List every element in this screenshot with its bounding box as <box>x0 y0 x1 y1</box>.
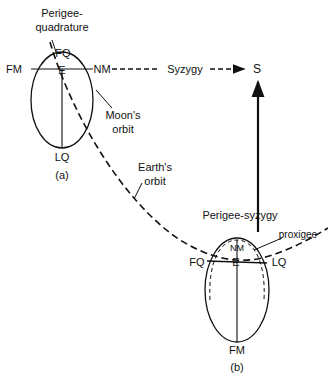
earth-orbit-line2: orbit <box>144 175 165 187</box>
label-e-a: E <box>58 64 65 76</box>
label-fm-a: FM <box>6 63 22 75</box>
moon-orbit-leader <box>96 90 112 108</box>
moon-orbit-line1: Moon's <box>105 109 141 121</box>
lunar-orbit-diagram: Perigee- quadrature FQ FM E NM LQ (a) Mo… <box>0 0 328 387</box>
label-fm-b: FM <box>229 344 245 356</box>
earth-orbit-leader <box>134 183 142 199</box>
earth-orbit-line1: Earth's <box>138 161 172 173</box>
label-nm-b: NM <box>230 243 244 253</box>
perigee-quadrature-line2: quadrature <box>35 21 88 33</box>
label-lq-a: LQ <box>55 151 70 163</box>
perigee-quadrature-line1: Perigee- <box>41 7 83 19</box>
proxigee-label: proxigee <box>279 229 318 240</box>
moon-orbit-line2: orbit <box>112 123 133 135</box>
label-fq-a: FQ <box>55 47 71 59</box>
label-e-b: E <box>232 256 239 268</box>
label-lq-b: LQ <box>272 256 287 268</box>
label-fq-b: FQ <box>189 256 205 268</box>
perigee-syzygy-title: Perigee-syzygy <box>202 209 278 221</box>
panel-a-label: (a) <box>55 169 68 181</box>
label-s: S <box>253 62 261 76</box>
syzygy-label: Syzygy <box>167 63 203 75</box>
panel-b-label: (b) <box>230 361 243 373</box>
label-nm-a: NM <box>93 63 110 75</box>
proxigee-leader <box>254 238 282 250</box>
